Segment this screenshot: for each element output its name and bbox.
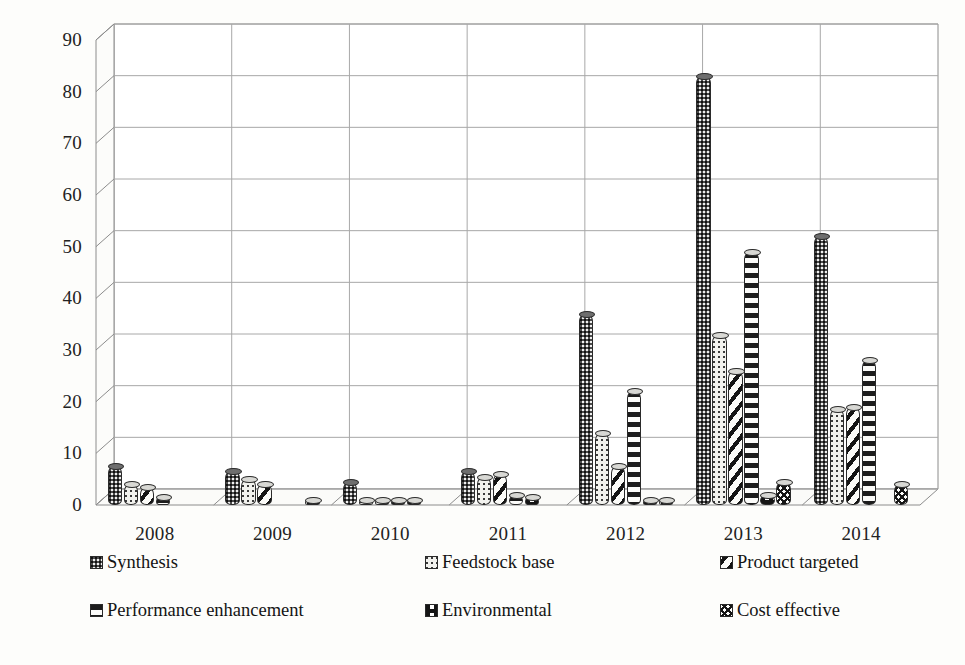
bar <box>776 482 790 505</box>
bar <box>830 409 844 505</box>
bar-cap <box>140 484 156 491</box>
bar <box>760 495 774 505</box>
legend-item[interactable]: Synthesis <box>90 552 178 572</box>
bar <box>525 497 539 505</box>
chart-legend: SynthesisFeedstock baseProduct targetedP… <box>90 552 920 632</box>
bar-cap <box>696 73 712 80</box>
legend-item[interactable]: Performance enhancement <box>90 600 304 620</box>
legend-label: Performance enhancement <box>107 600 304 620</box>
bar <box>595 433 609 505</box>
y-axis-tick: 60 <box>36 185 82 204</box>
y-axis-tick: 20 <box>36 392 82 411</box>
bar <box>862 360 876 505</box>
x-axis-tick: 2013 <box>685 524 803 543</box>
bar <box>627 391 641 505</box>
y-axis-tick: 80 <box>36 82 82 101</box>
bar-cap <box>509 492 525 499</box>
legend-swatch-icon <box>90 556 103 569</box>
bar-cap <box>728 368 744 375</box>
y-axis-tick: 10 <box>36 443 82 462</box>
bar-chart: 0102030405060708090 20082009201020112012… <box>0 0 965 665</box>
bar <box>611 466 625 505</box>
y-axis-tick: 70 <box>36 133 82 152</box>
bar-cap <box>305 497 321 504</box>
bar <box>461 471 475 505</box>
bar <box>225 471 239 505</box>
x-axis-tick: 2012 <box>567 524 685 543</box>
x-axis-tick: 2009 <box>214 524 332 543</box>
bar-cap <box>744 249 760 256</box>
bar <box>343 482 357 505</box>
bar <box>140 487 154 505</box>
bar <box>359 500 373 505</box>
bar-cap <box>257 481 273 488</box>
bar <box>375 500 389 505</box>
legend-label: Environmental <box>442 600 552 620</box>
bar-cap <box>760 492 776 499</box>
bar-cap <box>359 497 375 504</box>
bar-cap <box>579 311 595 318</box>
bar <box>156 497 170 505</box>
bar <box>493 474 507 505</box>
bar <box>108 466 122 505</box>
bar <box>241 479 255 505</box>
bar <box>712 335 726 506</box>
legend-label: Cost effective <box>737 600 840 620</box>
bar-cap <box>477 474 493 481</box>
legend-item[interactable]: Cost effective <box>720 600 840 620</box>
legend-item[interactable]: Product targeted <box>720 552 858 572</box>
legend-item[interactable]: Environmental <box>425 600 552 620</box>
y-axis-tick: 0 <box>36 495 82 514</box>
bar <box>579 314 593 505</box>
bar <box>643 500 657 505</box>
bar <box>477 477 491 505</box>
y-axis-tick: 40 <box>36 288 82 307</box>
x-axis-tick: 2010 <box>331 524 449 543</box>
x-axis-tick: 2008 <box>96 524 214 543</box>
bar-cap <box>659 497 675 504</box>
bar <box>257 484 271 505</box>
legend-label: Feedstock base <box>442 552 555 572</box>
y-axis-tick: 90 <box>36 30 82 49</box>
bar-cap <box>611 463 627 470</box>
bar-cap <box>343 479 359 486</box>
x-axis-tick: 2014 <box>802 524 920 543</box>
legend-swatch-icon <box>720 556 733 569</box>
y-axis: 0102030405060708090 <box>0 0 82 665</box>
bar-cap <box>712 332 728 339</box>
bar <box>744 252 758 505</box>
bar <box>728 371 742 505</box>
bar-cap <box>225 468 241 475</box>
legend-swatch-icon <box>720 604 733 617</box>
legend-swatch-icon <box>90 604 103 617</box>
legend-label: Product targeted <box>737 552 858 572</box>
legend-swatch-icon <box>425 604 438 617</box>
bar <box>124 484 138 505</box>
bar <box>305 500 319 505</box>
bar-cap <box>156 494 172 501</box>
legend-swatch-icon <box>425 556 438 569</box>
bar-cap <box>375 497 391 504</box>
bar-cap <box>627 388 643 395</box>
y-axis-tick: 50 <box>36 237 82 256</box>
legend-label: Synthesis <box>107 552 178 572</box>
bar-cap <box>525 494 541 501</box>
bar <box>696 76 710 505</box>
bar <box>814 236 828 505</box>
legend-item[interactable]: Feedstock base <box>425 552 555 572</box>
bar-cap <box>493 471 509 478</box>
bar-cap <box>407 497 423 504</box>
bar <box>391 500 405 505</box>
bar-cap <box>643 497 659 504</box>
bar <box>509 495 523 505</box>
y-axis-tick: 30 <box>36 340 82 359</box>
bar <box>846 407 860 505</box>
bar-cap <box>776 479 792 486</box>
bar-cap <box>846 404 862 411</box>
bar <box>894 484 908 505</box>
bar-cap <box>595 430 611 437</box>
bar <box>659 500 673 505</box>
bar <box>407 500 421 505</box>
x-axis-tick: 2011 <box>449 524 567 543</box>
bar-cap <box>241 476 257 483</box>
